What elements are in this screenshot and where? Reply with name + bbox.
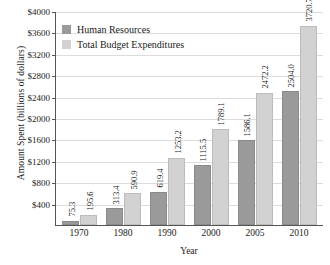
bar [106,208,123,225]
y-axis-tick-label: $3200 [28,50,51,60]
y-axis-tick-label: $1600 [28,135,51,145]
y-axis-tick-label: $800 [32,178,50,188]
bar-value-label: 195.6 [85,191,94,210]
y-axis-tick-label: $4000 [28,7,51,17]
bar [194,165,211,225]
bar-value-label: 1586.1 [243,113,252,136]
bar [212,129,229,225]
x-axis-tick-label: 2000 [194,228,229,238]
y-axis-tick-label: $1200 [28,157,51,167]
x-axis-tick-label: 2005 [238,228,273,238]
x-axis-tick-labels: 197019801990200020052010 [55,228,323,238]
bar [282,91,299,225]
bar-value-label: 1789.1 [217,102,226,125]
bar-value-label: 75.3 [67,202,76,217]
legend-item-total-budget-expenditures: Total Budget Expenditures [62,39,184,50]
y-axis-tick-label: $2800 [28,71,51,81]
legend-label-human-resources: Human Resources [77,24,150,35]
bar-value-label: 1115.5 [199,139,208,162]
y-axis-tick-label: $400 [32,200,50,210]
legend-item-human-resources: Human Resources [62,24,184,35]
bar-group: 2504.03720.7 [282,12,317,225]
bar-slot: 2504.0 [282,12,299,225]
bar-slot: 2472.2 [256,12,273,225]
bar-value-label: 2472.2 [261,65,270,88]
bar [300,26,317,225]
bar [256,93,273,225]
x-axis-tick-label: 1970 [62,228,97,238]
legend-swatch-human-resources [62,25,71,34]
x-axis-title: Year [55,246,323,256]
x-axis-tick-label: 1980 [106,228,141,238]
bar-value-label: 2504.0 [287,64,296,87]
bar [238,140,255,225]
legend: Human Resources Total Budget Expenditure… [62,24,184,50]
bar-value-label: 3720.7 [305,0,314,22]
bar-slot: 1789.1 [212,12,229,225]
bar-chart: Amount Spent (billions of dollars) $400$… [0,0,330,265]
y-axis-tick-label: $2000 [28,114,51,124]
x-axis-tick-label: 1990 [150,228,185,238]
y-axis-tick-label: $2400 [28,93,51,103]
bar-value-label: 590.9 [129,170,138,189]
legend-swatch-total-budget-expenditures [62,40,71,49]
bar [124,193,141,225]
bar [168,158,185,225]
bar-slot: 1586.1 [238,12,255,225]
bar-group: 1586.12472.2 [238,12,273,225]
y-axis-tick-label: $3600 [28,28,51,38]
bar-value-label: 619.4 [155,169,164,188]
bar-slot: 3720.7 [300,12,317,225]
y-axis-title: Amount Spent (billions of dollars) [16,18,26,208]
legend-label-total-budget-expenditures: Total Budget Expenditures [77,39,184,50]
bar [80,215,97,225]
x-axis-tick-label: 2010 [282,228,317,238]
bar-group: 1115.51789.1 [194,12,229,225]
bar-value-label: 1253.2 [173,131,182,154]
bar [62,221,79,225]
bar-value-label: 313.4 [111,185,120,204]
bar [150,192,167,225]
bar-slot: 1115.5 [194,12,211,225]
